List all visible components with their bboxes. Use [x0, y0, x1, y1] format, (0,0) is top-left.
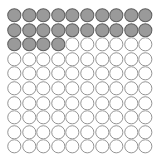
unit-dot-empty: [22, 66, 37, 81]
unit-dot-filled: [109, 23, 124, 38]
unit-dot-empty: [80, 37, 95, 52]
unit-dot-empty: [95, 125, 110, 140]
unit-dot-empty: [109, 96, 124, 111]
unit-dot-empty: [80, 125, 95, 140]
unit-dot-empty: [22, 125, 37, 140]
unit-dot-empty: [109, 139, 124, 154]
unit-dot-filled: [95, 23, 110, 38]
unit-dot-empty: [95, 66, 110, 81]
unit-dot-empty: [95, 110, 110, 125]
unit-dot-empty: [124, 37, 139, 52]
unit-dot-empty: [138, 52, 153, 67]
unit-dot-empty: [22, 81, 37, 96]
unit-dot-empty: [7, 81, 22, 96]
unit-dot-empty: [124, 96, 139, 111]
unit-dot-filled: [138, 23, 153, 38]
unit-dot-filled: [124, 8, 139, 23]
unit-dot-empty: [51, 66, 66, 81]
unit-dot-filled: [36, 37, 51, 52]
unit-dot-empty: [138, 125, 153, 140]
unit-dot-filled: [7, 23, 22, 38]
unit-dot-empty: [95, 81, 110, 96]
unit-dot-empty: [51, 81, 66, 96]
unit-dot-empty: [51, 52, 66, 67]
unit-dot-filled: [7, 37, 22, 52]
unit-dot-filled: [80, 8, 95, 23]
unit-dot-empty: [138, 96, 153, 111]
unit-dot-empty: [109, 52, 124, 67]
unit-dot-filled: [51, 37, 66, 52]
unit-dot-empty: [65, 52, 80, 67]
unit-dot-empty: [138, 81, 153, 96]
unit-dot-empty: [36, 81, 51, 96]
unit-dot-empty: [80, 52, 95, 67]
unit-dot-empty: [65, 96, 80, 111]
unit-dot-empty: [124, 66, 139, 81]
unit-dot-empty: [36, 110, 51, 125]
unit-dot-empty: [109, 81, 124, 96]
unit-dot-empty: [65, 125, 80, 140]
unit-dot-empty: [7, 66, 22, 81]
unit-dot-empty: [138, 37, 153, 52]
unit-dot-filled: [109, 8, 124, 23]
unit-dot-empty: [124, 139, 139, 154]
unit-dot-empty: [7, 110, 22, 125]
unit-dot-empty: [95, 52, 110, 67]
unit-dot-filled: [80, 23, 95, 38]
unit-dot-empty: [51, 96, 66, 111]
unit-dot-filled: [51, 8, 66, 23]
unit-dot-filled: [7, 8, 22, 23]
unit-dot-empty: [80, 66, 95, 81]
unit-dot-empty: [124, 110, 139, 125]
unit-dot-empty: [7, 52, 22, 67]
unit-dot-empty: [124, 81, 139, 96]
unit-dot-filled: [22, 23, 37, 38]
unit-dot-filled: [138, 8, 153, 23]
unit-dot-empty: [138, 66, 153, 81]
unit-dot-filled: [95, 8, 110, 23]
unit-dot-empty: [36, 139, 51, 154]
unit-dot-empty: [51, 125, 66, 140]
unit-dot-empty: [138, 110, 153, 125]
unit-dot-empty: [65, 110, 80, 125]
unit-chart: [0, 0, 160, 168]
unit-dot-empty: [109, 37, 124, 52]
unit-dot-empty: [109, 125, 124, 140]
unit-dot-empty: [22, 110, 37, 125]
unit-dot-empty: [95, 96, 110, 111]
unit-dot-empty: [65, 81, 80, 96]
unit-dot-empty: [22, 139, 37, 154]
unit-dot-empty: [36, 125, 51, 140]
unit-dot-empty: [36, 96, 51, 111]
unit-dot-empty: [51, 110, 66, 125]
unit-dot-filled: [51, 23, 66, 38]
unit-dot-filled: [65, 23, 80, 38]
unit-dot-empty: [124, 52, 139, 67]
unit-dot-empty: [80, 110, 95, 125]
unit-dot-filled: [36, 23, 51, 38]
unit-dot-empty: [22, 96, 37, 111]
unit-dot-empty: [80, 81, 95, 96]
unit-dot-empty: [95, 37, 110, 52]
unit-dot-empty: [36, 66, 51, 81]
unit-dot-filled: [36, 8, 51, 23]
unit-dot-filled: [22, 37, 37, 52]
unit-dot-empty: [22, 52, 37, 67]
unit-dot-empty: [109, 66, 124, 81]
unit-dot-filled: [22, 8, 37, 23]
unit-dot-empty: [124, 125, 139, 140]
unit-dot-empty: [80, 96, 95, 111]
unit-dot-empty: [65, 139, 80, 154]
unit-dot-filled: [65, 8, 80, 23]
unit-dot-empty: [80, 139, 95, 154]
unit-dot-empty: [7, 125, 22, 140]
unit-dot-empty: [65, 66, 80, 81]
dot-grid: [7, 8, 153, 154]
unit-dot-empty: [7, 139, 22, 154]
unit-dot-empty: [7, 96, 22, 111]
unit-dot-empty: [95, 139, 110, 154]
unit-dot-empty: [138, 139, 153, 154]
unit-dot-empty: [51, 139, 66, 154]
unit-dot-filled: [124, 23, 139, 38]
unit-dot-empty: [109, 110, 124, 125]
